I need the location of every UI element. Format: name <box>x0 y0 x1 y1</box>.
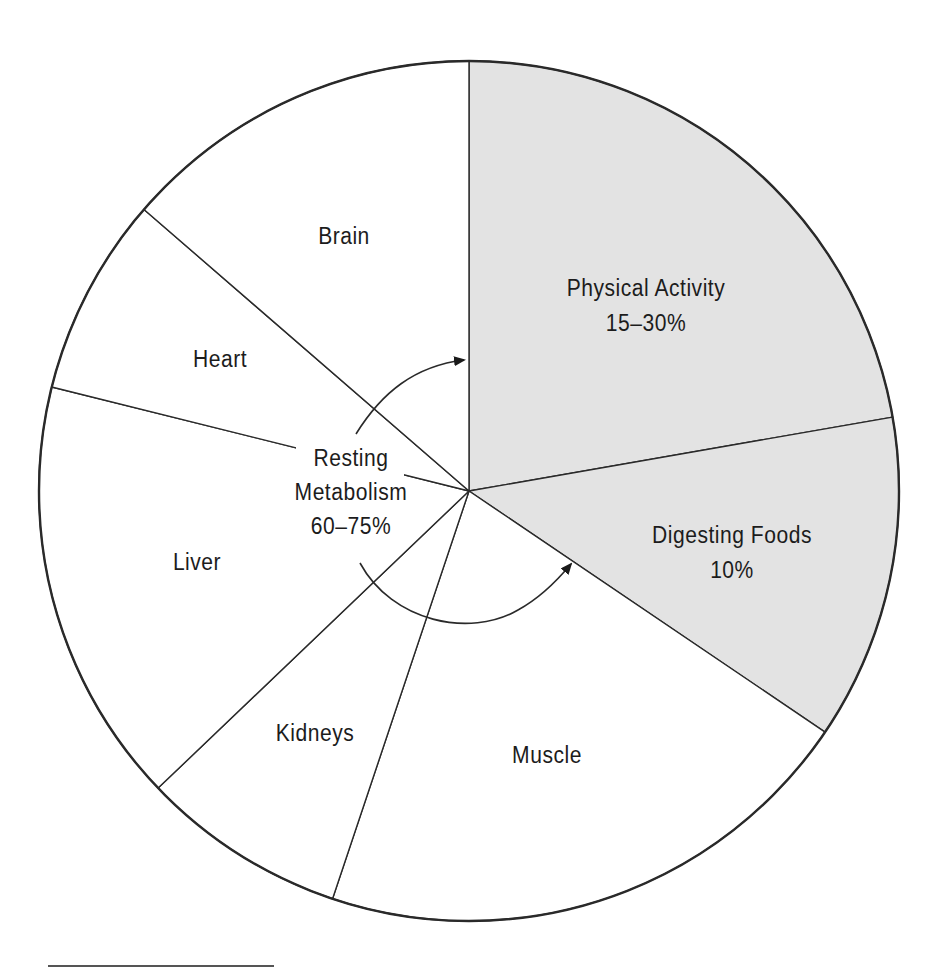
footnote-rule <box>48 965 274 967</box>
pie-slices <box>39 61 899 921</box>
label-heart: Heart <box>193 344 247 372</box>
label-resting-line2: Metabolism <box>295 477 408 505</box>
label-resting-value: 60–75% <box>311 511 391 539</box>
label-physical-activity: Physical Activity <box>567 273 726 301</box>
pie-chart: Brain Heart Liver Kidneys Muscle Physica… <box>0 0 934 976</box>
label-liver: Liver <box>173 547 221 575</box>
label-resting-line1: Resting <box>314 443 389 471</box>
label-physical-activity-value: 15–30% <box>606 308 686 336</box>
label-muscle: Muscle <box>512 740 582 768</box>
label-kidneys: Kidneys <box>276 718 355 746</box>
label-digesting-foods-value: 10% <box>710 555 754 583</box>
label-brain: Brain <box>318 221 370 249</box>
label-digesting-foods: Digesting Foods <box>652 520 812 548</box>
